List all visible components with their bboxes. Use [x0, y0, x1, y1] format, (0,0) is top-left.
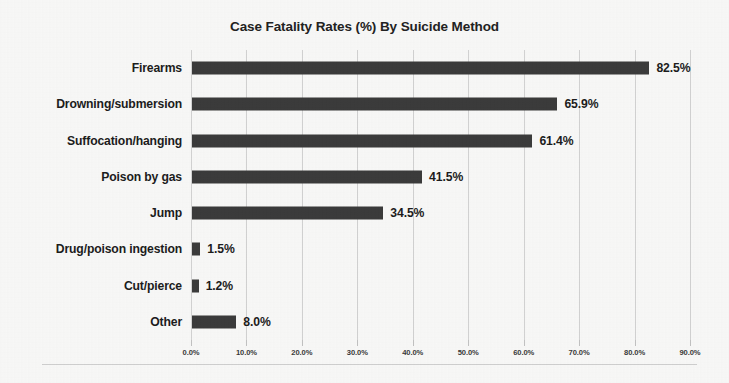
bar	[192, 315, 236, 328]
bar-row: Other8.0%	[191, 304, 690, 340]
x-tick-label: 40.0%	[402, 348, 423, 357]
bar-row: Jump34.5%	[191, 195, 690, 231]
bar	[192, 279, 199, 292]
x-tick-mark	[191, 340, 192, 346]
bar-chart-figure: Case Fatality Rates (%) By Suicide Metho…	[0, 0, 729, 383]
category-label: Poison by gas	[101, 170, 182, 184]
bar	[192, 243, 200, 256]
category-label: Firearms	[132, 61, 182, 75]
bar-row: Poison by gas41.5%	[191, 159, 690, 195]
x-tick-label: 50.0%	[458, 348, 479, 357]
x-tick-label: 10.0%	[236, 348, 257, 357]
bar	[192, 207, 383, 220]
x-tick-label: 30.0%	[347, 348, 368, 357]
bar-value-label: 65.9%	[564, 97, 598, 111]
x-tick-label: 80.0%	[624, 348, 645, 357]
bar	[192, 170, 422, 183]
bar-row: Firearms82.5%	[191, 50, 690, 86]
bar	[192, 134, 532, 147]
x-tick-label: 70.0%	[569, 348, 590, 357]
bar-row: Drowning/submersion65.9%	[191, 86, 690, 122]
x-tick-mark	[579, 340, 580, 346]
bar-value-label: 41.5%	[429, 170, 463, 184]
category-label: Jump	[150, 206, 182, 220]
category-label: Other	[150, 315, 182, 329]
x-tick-mark	[357, 340, 358, 346]
bar-value-label: 61.4%	[539, 134, 573, 148]
bar-value-label: 1.2%	[206, 279, 233, 293]
bar-value-label: 8.0%	[243, 315, 270, 329]
category-label: Cut/pierce	[124, 279, 182, 293]
x-tick-label: 90.0%	[679, 348, 700, 357]
x-tick-mark	[302, 340, 303, 346]
x-tick-mark	[468, 340, 469, 346]
x-tick-mark	[413, 340, 414, 346]
bar-value-label: 1.5%	[207, 242, 234, 256]
gridline-90.0%	[690, 50, 691, 340]
bar-row: Suffocation/hanging61.4%	[191, 123, 690, 159]
bar	[192, 98, 557, 111]
category-label: Suffocation/hanging	[67, 134, 182, 148]
bottom-divider	[42, 364, 697, 365]
category-label: Drowning/submersion	[56, 97, 182, 111]
x-tick-label: 0.0%	[183, 348, 200, 357]
x-tick-mark	[246, 340, 247, 346]
bar-row: Drug/poison ingestion1.5%	[191, 231, 690, 267]
x-tick-mark	[524, 340, 525, 346]
plot-area: Firearms82.5%Drowning/submersion65.9%Suf…	[191, 50, 690, 340]
chart-title: Case Fatality Rates (%) By Suicide Metho…	[0, 19, 729, 34]
x-tick-mark	[635, 340, 636, 346]
bar-value-label: 82.5%	[656, 61, 690, 75]
x-tick-mark	[690, 340, 691, 346]
category-label: Drug/poison ingestion	[56, 242, 182, 256]
bar-row: Cut/pierce1.2%	[191, 268, 690, 304]
x-tick-label: 20.0%	[291, 348, 312, 357]
bar-value-label: 34.5%	[390, 206, 424, 220]
bar	[192, 62, 649, 75]
x-tick-label: 60.0%	[513, 348, 534, 357]
